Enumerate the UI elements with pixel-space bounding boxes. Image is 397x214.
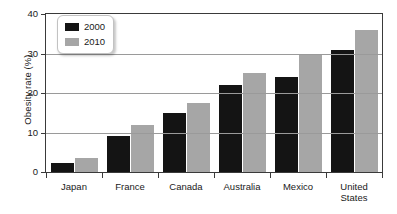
bar-canada-2000 [163,113,186,172]
x-axis-tick-mark [46,173,47,178]
x-axis-tick-mark [326,173,327,178]
x-axis-tick-mark [214,173,215,178]
legend-label: 2000 [84,22,105,32]
bar-mexico-2000 [275,77,298,172]
bar-united-states-2000 [331,50,354,172]
x-axis-label-france: France [102,181,158,192]
legend-item-2010: 2010 [65,36,105,48]
gridline [46,93,382,94]
chart-legend: 20002010 [57,15,114,54]
bar-japan-2000 [51,163,74,172]
x-axis-label-japan: Japan [46,181,102,192]
x-axis-label-united-states: United States [326,181,382,203]
bar-france-2000 [107,136,130,172]
y-axis-ticks: 010203040 [0,13,45,173]
legend-label: 2010 [84,37,105,47]
x-axis-tick-mark [270,173,271,178]
x-axis-tick-mark [102,173,103,178]
bar-japan-2010 [75,158,98,172]
bar-canada-2010 [187,103,210,172]
y-axis-tick-label: 10 [0,128,38,138]
x-axis-label-australia: Australia [214,181,270,192]
x-axis-label-mexico: Mexico [270,181,326,192]
y-axis-tick-label: 0 [0,167,38,177]
legend-swatch-icon-2000 [65,23,79,31]
bar-united-states-2010 [355,30,378,172]
x-axis-label-canada: Canada [158,181,214,192]
legend-item-2000: 2000 [65,21,105,33]
legend-swatch-icon-2010 [65,38,79,46]
x-axis-tick-mark [158,173,159,178]
y-axis-tick-label: 30 [0,49,38,59]
x-axis-tick-mark [382,173,383,178]
y-axis-tick-label: 40 [0,9,38,19]
bar-australia-2010 [243,73,266,172]
bar-mexico-2010 [299,54,322,173]
obesity-rate-bar-chart: Obesity rate (%) 010203040 20002010 Japa… [0,0,397,214]
y-axis-tick-label: 20 [0,88,38,98]
gridline [46,133,382,134]
bar-australia-2000 [219,85,242,172]
